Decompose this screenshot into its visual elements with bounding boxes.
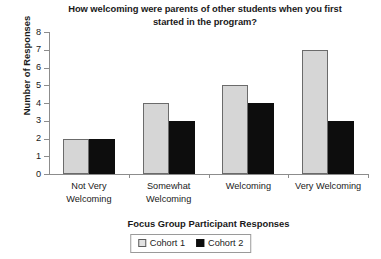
- y-axis-tick: 6: [44, 68, 49, 69]
- y-axis-tick: 8: [44, 32, 49, 33]
- y-axis-tick-label: 6: [36, 61, 41, 74]
- category-label-line: Somewhat: [129, 180, 209, 193]
- x-axis-tick: [209, 174, 210, 178]
- y-axis-title: Number of Responses: [21, 0, 32, 143]
- bar-group: [222, 32, 274, 174]
- bar-group: [302, 32, 354, 174]
- y-axis-tick-label: 1: [36, 150, 41, 163]
- y-axis-tick-label: 2: [36, 132, 41, 145]
- bar[interactable]: [248, 103, 274, 174]
- y-axis-tick-label: 4: [36, 97, 41, 110]
- y-axis-tick: 4: [44, 103, 49, 104]
- legend: Cohort 1 Cohort 2: [130, 234, 252, 253]
- plot-area: 012345678: [49, 32, 368, 174]
- y-axis-tick-label: 5: [36, 79, 41, 92]
- y-axis-tick-label: 8: [36, 26, 41, 39]
- bar-chart: How welcoming were parents of other stud…: [0, 0, 381, 259]
- y-axis-tick: 7: [44, 50, 49, 51]
- y-axis-line: [49, 32, 50, 174]
- x-axis-title: Focus Group Participant Responses: [49, 218, 368, 229]
- bar[interactable]: [302, 50, 328, 174]
- chart-title-line: How welcoming were parents of other stud…: [44, 3, 366, 16]
- bar[interactable]: [89, 139, 115, 175]
- x-axis-tick: [368, 174, 369, 178]
- legend-swatch-icon: [138, 239, 146, 247]
- bar[interactable]: [63, 139, 89, 175]
- bar[interactable]: [169, 121, 195, 174]
- category-label-line: Not Very: [49, 180, 129, 193]
- y-axis-tick: 2: [44, 139, 49, 140]
- bar-group: [63, 32, 115, 174]
- y-axis-tick: 3: [44, 121, 49, 122]
- y-axis-tick-label: 0: [36, 168, 41, 181]
- y-axis-tick: 1: [44, 156, 49, 157]
- y-axis-tick-label: 7: [36, 43, 41, 56]
- legend-label: Cohort 2: [208, 237, 243, 249]
- x-axis-category-label: SomewhatWelcoming: [129, 180, 209, 205]
- bar[interactable]: [143, 103, 169, 174]
- legend-swatch-icon: [196, 239, 204, 247]
- x-axis-category-label: Not VeryWelcoming: [49, 180, 129, 205]
- legend-item-cohort-2[interactable]: Cohort 2: [196, 237, 243, 249]
- category-label-line: Very Welcoming: [288, 180, 368, 193]
- y-axis-tick: 5: [44, 85, 49, 86]
- legend-label: Cohort 1: [150, 237, 185, 249]
- category-label-line: Welcoming: [49, 193, 129, 206]
- legend-item-cohort-1[interactable]: Cohort 1: [138, 237, 185, 249]
- y-axis-tick: 0: [44, 174, 49, 175]
- chart-title: How welcoming were parents of other stud…: [44, 3, 366, 28]
- bar[interactable]: [328, 121, 354, 174]
- x-axis-tick: [288, 174, 289, 178]
- bar-group: [143, 32, 195, 174]
- category-label-line: Welcoming: [209, 180, 289, 193]
- x-axis-category-label: Welcoming: [209, 180, 289, 193]
- chart-title-line: started in the program?: [44, 16, 366, 29]
- bar[interactable]: [222, 85, 248, 174]
- x-axis-tick: [129, 174, 130, 178]
- y-axis-tick-label: 3: [36, 114, 41, 127]
- category-label-line: Welcoming: [129, 193, 209, 206]
- x-axis-category-label: Very Welcoming: [288, 180, 368, 193]
